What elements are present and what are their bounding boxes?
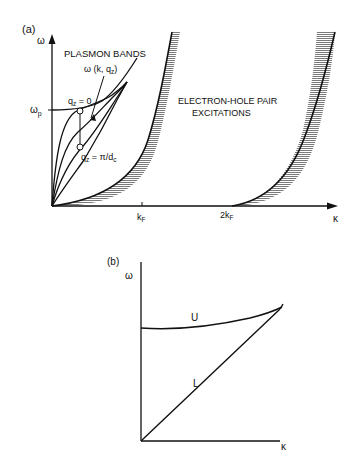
k-axis-arrow-icon (327, 203, 338, 210)
omega-axis-label-b: ω (125, 270, 133, 281)
kappa-axis-label: κ (333, 213, 339, 224)
qz0-label: qz = 0 (68, 96, 92, 107)
band-label-leader (91, 76, 104, 118)
omega-axis-label: ω (37, 35, 45, 46)
qz0-marker (77, 108, 83, 114)
panel-b: (b) ω κ U L (107, 256, 287, 452)
omega-p-label: ωp (30, 104, 42, 118)
panel-b-label: (b) (107, 256, 119, 267)
plasmon-bands-title: PLASMON BANDS (64, 48, 146, 59)
eh-continuum-band-right (232, 32, 335, 206)
qzpi-marker (77, 144, 83, 150)
upper-branch-curve (141, 307, 282, 329)
eh-region-label-line1: ELECTRON-HOLE PAIR (178, 96, 278, 106)
omega-axis-arrow-icon (49, 34, 56, 44)
qzpi-label: qz = π/dc (81, 152, 117, 163)
plasmon-dispersion-figure: (a) ω κ ωp kF 2kF (0, 0, 352, 458)
kappa-axis-label-b: κ (281, 441, 287, 452)
panel-a: (a) ω κ ωp kF 2kF (22, 23, 339, 224)
band-function-label: ω (k, qz) (84, 64, 117, 75)
kf-tick-label: kF (137, 212, 146, 223)
eh-region-label-line2: EXCITATIONS (192, 108, 251, 118)
lower-branch-label: L (193, 378, 199, 389)
2kf-tick-label: 2kF (220, 210, 234, 221)
panel-a-label: (a) (22, 23, 35, 35)
upper-branch-label: U (191, 312, 198, 323)
